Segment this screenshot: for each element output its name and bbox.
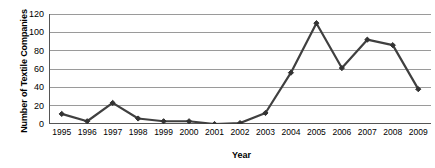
y-tick-label: 120 [22, 10, 44, 19]
x-tick-label: 2002 [231, 128, 250, 137]
line-chart: Number of Textile Companies 020406080100… [0, 0, 435, 168]
x-tick-label: 1999 [154, 128, 173, 137]
x-axis-title: Year [48, 150, 435, 160]
x-tick-label: 2006 [332, 128, 351, 137]
y-tick-label: 100 [22, 28, 44, 37]
plot-area [49, 14, 431, 124]
x-tick-label: 2001 [205, 128, 224, 137]
y-axis-tick-labels: 020406080100120 [22, 14, 44, 124]
y-tick-label: 20 [22, 101, 44, 110]
y-tick-label: 80 [22, 46, 44, 55]
data-series-line [62, 23, 419, 124]
x-tick-label: 1996 [78, 128, 97, 137]
x-tick-label: 2000 [180, 128, 199, 137]
y-tick-label: 40 [22, 83, 44, 92]
x-tick-label: 2004 [281, 128, 300, 137]
x-tick-label: 2009 [409, 128, 428, 137]
x-tick-label: 2005 [307, 128, 326, 137]
x-tick-label: 1998 [129, 128, 148, 137]
data-series-markers [59, 21, 421, 124]
x-tick-label: 2008 [383, 128, 402, 137]
x-tick-label: 2007 [358, 128, 377, 137]
y-tick-label: 60 [22, 65, 44, 74]
x-tick-label: 1997 [103, 128, 122, 137]
x-tick-label: 1995 [52, 128, 71, 137]
x-tick-label: 2003 [256, 128, 275, 137]
plot-svg [49, 14, 431, 124]
x-axis-tick-labels: 1995199619971998199920002001200220032004… [49, 128, 431, 142]
y-tick-label: 0 [22, 120, 44, 129]
